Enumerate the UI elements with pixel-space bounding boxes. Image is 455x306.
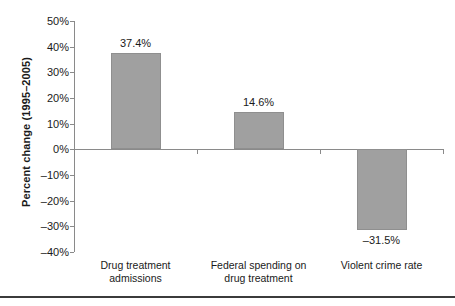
y-axis-tick-label: 40% xyxy=(13,42,69,53)
y-axis-tick-label: –30% xyxy=(13,221,69,232)
y-axis-tick-mark xyxy=(70,252,74,253)
bar-chart-figure: Percent change (1995–2005) 50%40%30%20%1… xyxy=(0,0,455,306)
category-boundary-tick xyxy=(443,149,444,154)
plot-area: 50%40%30%20%10%0%–10%–20%–30%–40% 37.4%1… xyxy=(74,21,443,252)
y-axis-tick-label: –20% xyxy=(13,196,69,207)
x-axis-category-label: Drug treatmentadmissions xyxy=(74,259,198,285)
y-axis-tick-mark xyxy=(70,72,74,73)
y-axis-tick-mark xyxy=(70,124,74,125)
y-axis-tick-label: 30% xyxy=(13,67,69,78)
bar-value-label: 37.4% xyxy=(96,37,176,49)
y-axis-tick-label: 0% xyxy=(13,144,69,155)
bar xyxy=(357,149,407,230)
y-axis-tick-mark xyxy=(70,226,74,227)
bar xyxy=(111,53,161,149)
x-axis-category-label-line: Drug treatment xyxy=(74,259,198,272)
y-axis-tick: –10% xyxy=(74,175,75,176)
y-axis-tick: –20% xyxy=(74,201,75,202)
y-axis-tick-mark xyxy=(70,21,74,22)
category-boundary-tick xyxy=(320,149,321,154)
y-axis-tick-mark xyxy=(70,175,74,176)
x-axis-category-label-line: Federal spending on xyxy=(197,259,321,272)
x-axis-category-label: Violent crime rate xyxy=(320,259,444,272)
bar-value-label: 14.6% xyxy=(219,96,299,108)
y-axis-tick: 30% xyxy=(74,72,75,73)
y-axis-tick: 50% xyxy=(74,21,75,22)
bar-value-label: –31.5% xyxy=(342,234,422,246)
x-axis-category-label: Federal spending ondrug treatment xyxy=(197,259,321,285)
x-axis-category-label-line: drug treatment xyxy=(197,272,321,285)
y-axis-tick: –30% xyxy=(74,226,75,227)
y-axis-tick-label: 10% xyxy=(13,119,69,130)
y-axis-tick: 10% xyxy=(74,124,75,125)
y-axis-tick-mark xyxy=(70,98,74,99)
y-axis-tick-label: 20% xyxy=(13,93,69,104)
y-axis-title: Percent change (1995–2005) xyxy=(18,22,34,242)
y-axis-tick-mark xyxy=(70,201,74,202)
y-axis-tick: –40% xyxy=(74,252,75,253)
y-axis-tick: 40% xyxy=(74,47,75,48)
bottom-divider-rule xyxy=(0,296,455,298)
y-axis-tick-label: 50% xyxy=(13,16,69,27)
y-axis-tick-label: –10% xyxy=(13,170,69,181)
bar xyxy=(234,112,284,149)
category-boundary-tick xyxy=(197,149,198,154)
y-axis-tick-mark xyxy=(70,47,74,48)
y-axis-line xyxy=(74,21,75,252)
y-axis-tick: 20% xyxy=(74,98,75,99)
x-axis-category-label-line: Violent crime rate xyxy=(320,259,444,272)
y-axis-tick-label: –40% xyxy=(13,247,69,258)
x-axis-category-label-line: admissions xyxy=(74,272,198,285)
